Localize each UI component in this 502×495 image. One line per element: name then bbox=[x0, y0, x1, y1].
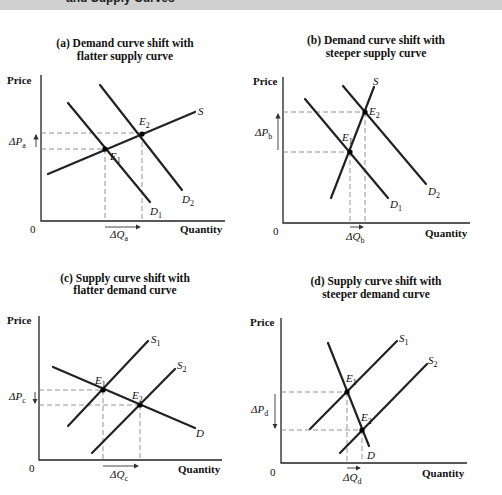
svg-text:E1: E1 bbox=[109, 150, 121, 165]
panel-c-origin: 0 bbox=[29, 462, 35, 474]
supply-demand-figure: (a) Demand curve shift with flatter supp… bbox=[0, 0, 502, 495]
panel-d: (d) Supply curve shift with steeper dema… bbox=[250, 275, 467, 486]
svg-text:E1: E1 bbox=[345, 372, 357, 387]
svg-text:D1: D1 bbox=[389, 198, 402, 213]
panel-d-title-line1: (d) Supply curve shift with bbox=[311, 275, 443, 288]
panel-a-guides bbox=[41, 133, 142, 221]
panel-c-y-axis-label: Price bbox=[7, 314, 32, 326]
svg-text:ΔPb: ΔPb bbox=[254, 126, 272, 141]
svg-text:S: S bbox=[198, 105, 204, 117]
panel-c: (c) Supply curve shift with flatter dema… bbox=[7, 272, 222, 483]
panel-b-x-axis-label: Quantity bbox=[425, 227, 468, 239]
panel-a-point-e1 bbox=[102, 146, 107, 151]
svg-text:S1: S1 bbox=[399, 332, 409, 347]
panel-b-origin: 0 bbox=[273, 225, 279, 237]
panel-c-guides bbox=[39, 390, 140, 460]
svg-text:ΔPc: ΔPc bbox=[8, 390, 26, 405]
panel-a-x-axis-label: Quantity bbox=[180, 223, 223, 235]
panel-a-y-axis-label: Price bbox=[7, 74, 32, 86]
svg-text:ΔQb: ΔQb bbox=[345, 230, 364, 245]
panel-a-curve-d1 bbox=[68, 103, 150, 202]
panel-b-y-axis-label: Price bbox=[253, 75, 278, 87]
panel-a: (a) Demand curve shift with flatter supp… bbox=[7, 37, 225, 243]
panel-b-point-e1 bbox=[347, 149, 352, 154]
panel-c-title-line2: flatter demand curve bbox=[73, 284, 176, 296]
svg-text:S2: S2 bbox=[428, 354, 438, 369]
svg-text:D1: D1 bbox=[149, 205, 162, 220]
panel-a-point-e2 bbox=[139, 131, 144, 136]
svg-text:ΔQd: ΔQd bbox=[342, 471, 361, 486]
panel-a-curve-d2 bbox=[100, 85, 182, 190]
svg-text:E2: E2 bbox=[360, 411, 372, 426]
panel-b: (b) Demand curve shift with steeper supp… bbox=[253, 34, 470, 245]
svg-text:D: D bbox=[366, 449, 375, 461]
panel-b-guides bbox=[283, 112, 365, 223]
panel-d-origin: 0 bbox=[270, 466, 276, 478]
panel-c-curve-s1 bbox=[68, 341, 148, 426]
svg-text:ΔQc: ΔQc bbox=[109, 468, 128, 483]
svg-text:D: D bbox=[195, 427, 204, 439]
svg-text:D2: D2 bbox=[427, 185, 440, 200]
panel-d-y-axis-label: Price bbox=[250, 316, 275, 328]
svg-text:E2: E2 bbox=[138, 115, 150, 130]
panel-a-title-line1: (a) Demand curve shift with bbox=[56, 37, 194, 50]
panel-d-point-e1 bbox=[344, 389, 349, 394]
panel-c-x-axis-label: Quantity bbox=[178, 463, 221, 475]
panel-a-curve-s bbox=[48, 112, 195, 174]
svg-text:ΔQa: ΔQa bbox=[109, 228, 128, 243]
svg-text:ΔPa: ΔPa bbox=[8, 135, 26, 150]
panel-d-guides bbox=[281, 392, 362, 463]
svg-text:D2: D2 bbox=[181, 193, 194, 208]
svg-text:ΔPd: ΔPd bbox=[250, 403, 268, 418]
panel-d-axes bbox=[281, 318, 467, 463]
svg-text:S2: S2 bbox=[177, 359, 187, 374]
panel-b-title-line2: steeper supply curve bbox=[326, 47, 427, 60]
panel-d-point-e2 bbox=[359, 427, 364, 432]
panel-c-axes bbox=[39, 316, 222, 460]
panel-a-axes bbox=[41, 75, 225, 221]
svg-text:S1: S1 bbox=[151, 333, 161, 348]
panel-b-point-e2 bbox=[362, 109, 367, 114]
panel-d-x-axis-label: Quantity bbox=[422, 467, 465, 479]
panel-b-title-line1: (b) Demand curve shift with bbox=[307, 34, 446, 47]
panel-b-axes bbox=[283, 77, 470, 223]
svg-text:S: S bbox=[373, 75, 379, 87]
panel-d-title-line2: steeper demand curve bbox=[322, 288, 430, 301]
panel-a-origin: 0 bbox=[30, 223, 36, 235]
panel-a-title-line2: flatter supply curve bbox=[77, 50, 173, 63]
